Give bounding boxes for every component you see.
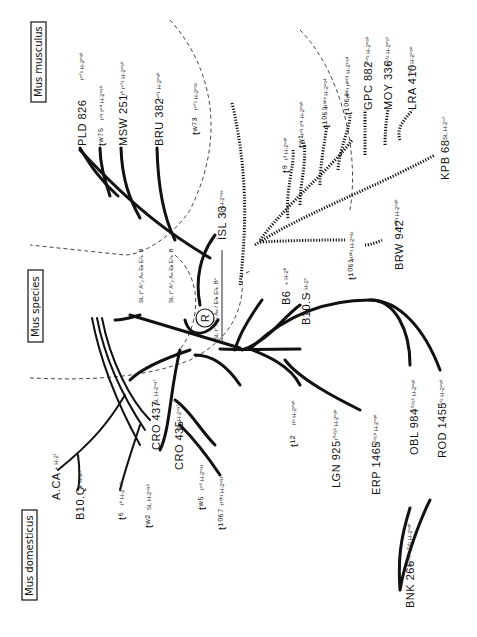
svg-text:B6: B6 — [280, 291, 292, 305]
svg-text:tʷ¹: tʷ¹ — [296, 134, 308, 148]
taxon-label: tʷ⁷³ — [190, 117, 202, 135]
svg-text:tʷ⁵: tʷ⁵ — [196, 496, 208, 510]
svg-text:tᵀᵘˡ² H-2ʷ³⁰: tᵀᵘˡ² H-2ʷ³⁰ — [439, 379, 445, 408]
svg-text:t¹⁰⁶⁹ H-2ʷ³⁴: t¹⁰⁶⁹ H-2ʷ³⁴ — [323, 78, 329, 108]
svg-text:SL H-2ʷ³⁷: SL H-2ʷ³⁷ — [153, 379, 159, 405]
svg-text:+ H-2ᶠ: + H-2ᶠ — [53, 453, 59, 470]
svg-text:LGN 925: LGN 925 — [330, 440, 342, 488]
svg-text:tᵀᵘˡ² H-2ʷ³⁰: tᵀᵘˡ² H-2ʷ³⁰ — [409, 46, 415, 75]
musculus-labels: PLD 826 tʷ⁷³ H-2ʷ³⁰ tʷ⁷⁵ tʷ¹ tʷ⁴ H-2ʷ³⁰ … — [76, 52, 228, 240]
species-genotype-2: SL t° A°₂ Aₐ Eₕ E²ₖ B — [168, 249, 174, 304]
svg-text:t¹²: t¹² — [288, 435, 300, 447]
musculus-branches — [80, 148, 215, 305]
root-node: R — [196, 309, 214, 327]
svg-text:Mus musculus: Mus musculus — [33, 26, 44, 97]
svg-text:MOY 336: MOY 336 — [382, 60, 394, 110]
species-genotype-1: SL t° A°₂ Aₐ Eₕ E²ₖ B — [138, 249, 144, 304]
svg-text:A.CA: A.CA — [50, 472, 62, 500]
haplotype-label: t⁶ tʷ⁷¹ H-2ʷ³⁰ — [120, 61, 126, 95]
group-box-domesticus: Mus domesticus — [22, 510, 37, 600]
svg-text:Mus species: Mus species — [30, 276, 41, 337]
svg-text:BNK 266: BNK 266 — [404, 560, 416, 608]
svg-text:R: R — [199, 314, 211, 322]
svg-text:GPC 882: GPC 882 — [362, 61, 374, 110]
central-boundary — [175, 255, 196, 355]
phylogenetic-tree: Mus musculus Mus species Mus domesticus — [0, 0, 477, 637]
svg-text:ROD 1455: ROD 1455 — [436, 402, 448, 458]
svg-text:SL H-2ʷ³⁹: SL H-2ʷ³⁹ — [146, 484, 152, 510]
svg-text:tᵀᵘˡ²⁵ H-2ʷ³⁰: tᵀᵘˡ²⁵ H-2ʷ³⁰ — [411, 379, 417, 410]
svg-text:tʷ⁵ H-2ʷ³¹: tʷ⁵ H-2ʷ³¹ — [199, 465, 205, 490]
svg-text:SL H-2ʷ³⁷: SL H-2ʷ³⁷ — [176, 404, 182, 430]
svg-text:+ H-2ˢ: + H-2ˢ — [303, 278, 309, 295]
svg-text:t¹⁰⁶¹ t¹⁰⁶⁴ H-2ʷ³⁴: t¹⁰⁶¹ t¹⁰⁶⁴ H-2ʷ³⁴ — [345, 56, 351, 98]
svg-text:tᵀᵘˡ²⁶ H-2ʷ³⁰: tᵀᵘˡ²⁶ H-2ʷ³⁰ — [333, 409, 339, 440]
svg-text:t⁸ H-2ʷ³⁰: t⁸ H-2ʷ³⁰ — [283, 137, 289, 160]
taxon-label: PLD 826 — [76, 100, 88, 146]
central-branches — [58, 300, 440, 590]
svg-text:KPB 68: KPB 68 — [439, 140, 451, 180]
svg-text:t¹⁰⁶¹ H-2ʷ³²: t¹⁰⁶¹ H-2ʷ³² — [349, 232, 355, 260]
svg-text:B10.Q: B10.Q — [74, 486, 86, 520]
svg-text:t⁶: t⁶ — [116, 511, 128, 520]
taxon-label: BRU 382 — [153, 98, 165, 146]
svg-text:tᵀᵘˡ² H-2ʷ³⁵: tᵀᵘˡ² H-2ʷ³⁵ — [385, 36, 391, 65]
root-genotype: SL t° A°₂ Aₐ / E²ₕ E²ₖ B° — [213, 277, 219, 340]
svg-text:tʷ¹ tʷ¹ H-2ʷ³⁰: tʷ¹ tʷ¹ H-2ʷ³⁰ — [299, 101, 305, 135]
svg-text:t¹⁰⁶⁷: t¹⁰⁶⁷ — [216, 508, 228, 530]
svg-text:t¹⁰⁶¹ H-2ʷ³⁰: t¹⁰⁶¹ H-2ʷ³⁰ — [394, 199, 400, 228]
svg-text:tᵀᵘˡ² H-2ʷ³⁰: tᵀᵘˡ² H-2ʷ³⁰ — [365, 36, 371, 65]
group-box-musculus: Mus musculus — [31, 22, 46, 102]
svg-text:SL H-2ʷ⁷: SL H-2ʷ⁷ — [442, 116, 448, 140]
svg-text:OBL 984: OBL 984 — [408, 408, 420, 455]
svg-text:CRO 437: CRO 437 — [150, 401, 162, 450]
svg-text:tᵀᵘˡ²⁹ H-2ʷ³⁰: tᵀᵘˡ²⁹ H-2ʷ³⁰ — [373, 414, 379, 445]
group-box-species: Mus species — [28, 270, 43, 342]
svg-text:t¹⁰⁶¹: t¹⁰⁶¹ — [346, 259, 358, 280]
haplotype-label: R₁ H-2ʷ³³ — [219, 190, 225, 215]
svg-text:+ H-2ᵇ: + H-2ᵇ — [283, 267, 289, 285]
hatched-labels: t⁸ t⁸ H-2ʷ³⁰ tʷ¹ tʷ¹ tʷ¹ H-2ʷ³⁰ t¹⁰⁶⁹ t¹… — [280, 36, 451, 280]
domesticus-labels: t¹² t¹² H-2ʷ³⁰ LGN 925 tᵀᵘˡ²⁶ H-2ʷ³⁰ ERP… — [50, 379, 448, 608]
svg-text:t⁸: t⁸ — [280, 164, 292, 173]
svg-text:t¹² H-2ʷ³⁰: t¹² H-2ʷ³⁰ — [291, 400, 297, 425]
taxon-label: MSW 251 — [117, 94, 129, 146]
taxon-label: tʷ⁷⁵ — [96, 127, 108, 146]
svg-text:tʷ²: tʷ² — [143, 514, 155, 528]
haplotype-label: tʷ⁷³ H-2ʷ³² — [193, 83, 199, 110]
haplotype-label: tʷ¹ tʷ⁴ H-2ʷ³⁰ — [99, 85, 105, 120]
svg-text:ERP 1465: ERP 1465 — [370, 441, 382, 495]
svg-text:t¹⁰⁶¹ H-2ʷ³¹: t¹⁰⁶¹ H-2ʷ³¹ — [219, 477, 225, 505]
svg-text:Mus domesticus: Mus domesticus — [24, 515, 35, 596]
svg-text:B10.S: B10.S — [300, 293, 312, 325]
svg-text:t⁶ H-2ʷ³⁹: t⁶ H-2ʷ³⁹ — [119, 482, 125, 505]
svg-text:+ H-2ᵠ: + H-2ᵠ — [77, 470, 83, 488]
svg-text:tᵀᵘˡ²⁵ tᵀᵘˡ² H-2ʷ³⁰: tᵀᵘˡ²⁵ tᵀᵘˡ² H-2ʷ³⁰ — [407, 523, 413, 565]
haplotype-label: tʷ⁷¹ H-2ʷ³⁰ — [156, 72, 162, 100]
haplotype-label: tʷ⁷³ H-2ʷ³⁰ — [79, 52, 85, 80]
